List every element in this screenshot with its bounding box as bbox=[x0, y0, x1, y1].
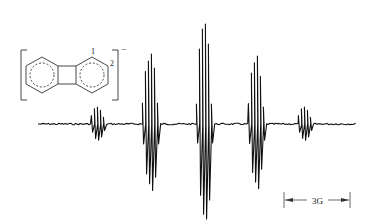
left-aromatic-circle bbox=[30, 63, 54, 87]
esr-spectrum-figure: 1 2 − 3G bbox=[0, 0, 369, 224]
spectrum-trace bbox=[38, 24, 356, 219]
right-bracket bbox=[112, 50, 118, 100]
scale-bar-label: 3G bbox=[312, 196, 324, 206]
right-aromatic-circle bbox=[80, 63, 104, 87]
right-benzene-ring bbox=[76, 57, 108, 93]
position-label-2: 2 bbox=[110, 59, 114, 68]
position-label-1: 1 bbox=[91, 47, 95, 56]
left-benzene-ring bbox=[26, 57, 58, 93]
biphenylene-structure bbox=[21, 50, 118, 100]
scale-bar-right-arrow-icon bbox=[341, 198, 349, 202]
charge-label: − bbox=[121, 44, 126, 54]
scale-bar-left-arrow-icon bbox=[285, 198, 293, 202]
